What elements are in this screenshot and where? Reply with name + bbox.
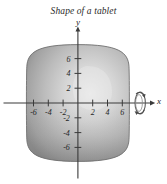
y-tick-label-6: 6 <box>67 54 71 63</box>
x-tick-label--4: -4 <box>45 108 52 117</box>
y-tick-label--4: -4 <box>63 128 70 137</box>
y-tick-label-4: 4 <box>67 69 71 78</box>
x-axis-arrow <box>150 101 155 106</box>
y-tick-label--6: -6 <box>63 143 70 152</box>
x-tick-label-4: 4 <box>106 108 110 117</box>
y-tick-label-2: 2 <box>67 84 71 93</box>
x-axis-label: x <box>157 96 161 106</box>
figure-container: Shape of a tablet <box>0 0 167 184</box>
plot-svg <box>0 0 167 184</box>
y-axis-arrow <box>76 26 81 31</box>
y-axis-label: y <box>76 17 80 27</box>
x-tick-label-6: 6 <box>120 108 124 117</box>
x-tick-label-2: 2 <box>91 108 95 117</box>
y-tick-label--2: -2 <box>63 113 70 122</box>
x-tick-label--6: -6 <box>30 108 37 117</box>
